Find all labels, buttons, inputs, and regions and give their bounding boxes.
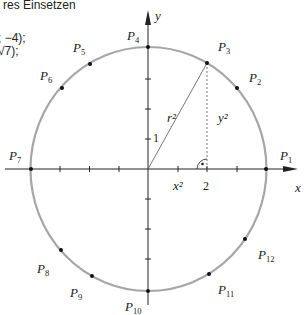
label-p9: P9 bbox=[69, 285, 82, 302]
radius-line bbox=[148, 63, 207, 169]
label-y-squared: y² bbox=[216, 110, 229, 125]
tick-label-2: 2 bbox=[203, 179, 209, 193]
point-labels: P1 P2 P3 P4 P5 P6 P7 P8 P9 P10 P11 P12 bbox=[8, 28, 292, 315]
point-p1 bbox=[264, 167, 268, 171]
point-p3 bbox=[205, 61, 209, 65]
point-p9 bbox=[90, 274, 94, 278]
label-p2: P2 bbox=[248, 70, 261, 87]
label-p1: P1 bbox=[279, 148, 292, 165]
point-p6 bbox=[60, 86, 64, 90]
point-p5 bbox=[88, 62, 92, 66]
point-p11 bbox=[207, 272, 211, 276]
label-p10: P10 bbox=[124, 299, 141, 315]
point-p10 bbox=[146, 289, 150, 293]
label-x-squared: x² bbox=[172, 178, 184, 193]
label-p12: P12 bbox=[257, 247, 274, 264]
formula-fragment-2: √7); bbox=[0, 44, 19, 58]
point-p7 bbox=[29, 167, 33, 171]
label-p8: P8 bbox=[36, 261, 49, 278]
label-p5: P5 bbox=[72, 40, 85, 57]
point-p8 bbox=[59, 248, 63, 252]
point-p4 bbox=[146, 45, 150, 49]
label-p11: P11 bbox=[217, 282, 234, 299]
heading-fragment: res Einsetzen bbox=[3, 0, 76, 12]
x-axis-arrow-icon bbox=[283, 166, 298, 172]
coordinate-circle-diagram: res Einsetzen ; −4); √7); r² y² x² 1 2 x… bbox=[0, 0, 307, 315]
point-p2 bbox=[235, 86, 239, 90]
tick-label-1: 1 bbox=[153, 131, 159, 145]
formula-fragment-1: ; −4); bbox=[0, 31, 26, 45]
label-p3: P3 bbox=[217, 39, 230, 56]
x-axis-label: x bbox=[294, 180, 301, 195]
label-p4: P4 bbox=[126, 28, 140, 45]
label-p6: P6 bbox=[39, 68, 52, 85]
y-axis-label: y bbox=[153, 8, 161, 23]
point-p12 bbox=[243, 237, 247, 241]
label-r-squared: r² bbox=[167, 110, 177, 125]
right-angle-dot bbox=[201, 163, 204, 166]
label-p7: P7 bbox=[8, 148, 21, 165]
y-axis-arrow-icon bbox=[145, 10, 151, 25]
